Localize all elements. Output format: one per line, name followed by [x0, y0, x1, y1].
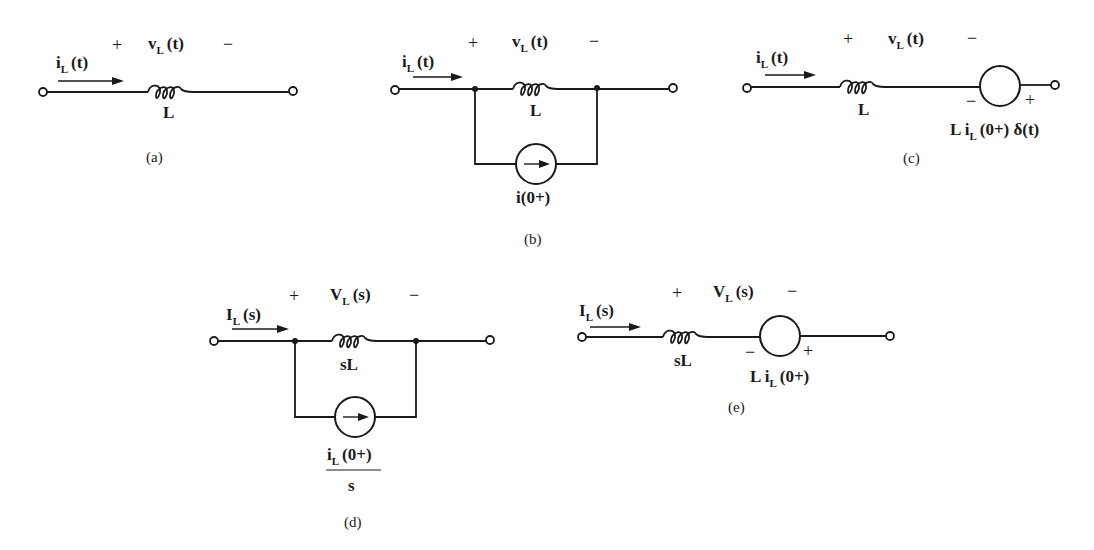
- current-label: IL(s): [226, 305, 261, 327]
- inductor-label: L: [530, 101, 541, 120]
- circuit-e: IL(s) + VL(s) − sL − + L iL(0+) (e): [578, 281, 894, 416]
- source-plus-sign: +: [803, 341, 813, 361]
- plus-sign: +: [843, 29, 853, 49]
- minus-sign: −: [223, 34, 233, 54]
- minus-sign: −: [787, 281, 797, 301]
- minus-sign: −: [967, 28, 977, 48]
- voltage-label: vL(t): [148, 34, 184, 56]
- caption-e: (e): [728, 399, 745, 416]
- current-label: iL(t): [56, 53, 88, 75]
- source-label: L iL(0+) δ(t): [950, 120, 1039, 142]
- current-arrow-icon: [590, 323, 641, 331]
- inductor-label: L: [163, 103, 174, 122]
- source-label-fraction: iL(0+) s: [326, 445, 381, 495]
- current-arrow-icon: [413, 73, 463, 81]
- source-denominator: s: [348, 476, 355, 495]
- terminal-right: [289, 87, 297, 95]
- plus-sign: +: [672, 283, 682, 303]
- current-arrow-icon: [765, 71, 816, 79]
- terminal-left: [391, 86, 399, 94]
- parallel-branch-left: [295, 341, 335, 417]
- circuit-a: iL(t) + vL(t) − L (a): [39, 34, 297, 166]
- minus-sign: −: [409, 285, 419, 305]
- terminal-right: [669, 84, 677, 92]
- inductor-label: sL: [674, 351, 692, 370]
- inductor-icon: [513, 83, 558, 96]
- current-arrow-icon: [232, 325, 289, 333]
- terminal-right: [1051, 81, 1059, 89]
- caption-b: (b): [524, 231, 542, 248]
- inductor-label: sL: [340, 355, 358, 374]
- voltage-label: VL(s): [330, 285, 371, 307]
- inductor-icon: [840, 81, 885, 94]
- plus-sign: +: [112, 35, 122, 55]
- inductor-equivalent-circuits-figure: iL(t) + vL(t) − L (a) iL(t) + vL(t) − L …: [0, 0, 1094, 550]
- voltage-label: vL(t): [512, 32, 548, 54]
- terminal-right: [886, 332, 894, 340]
- voltage-source-icon: [760, 316, 800, 356]
- caption-a: (a): [146, 149, 163, 166]
- current-label: IL(s): [579, 301, 614, 323]
- terminal-left: [39, 88, 47, 96]
- circuit-b: iL(t) + vL(t) − L i(0+) (b): [391, 31, 677, 248]
- plus-sign: +: [468, 33, 478, 53]
- source-plus-sign: +: [1025, 90, 1035, 110]
- terminal-left: [578, 333, 586, 341]
- inductor-icon: [332, 335, 377, 348]
- plus-sign: +: [289, 286, 299, 306]
- parallel-branch-left: [475, 89, 516, 164]
- parallel-branch-right: [375, 341, 416, 417]
- source-minus-sign: −: [966, 91, 976, 111]
- voltage-label: vL(t): [888, 29, 924, 51]
- terminal-left: [210, 337, 218, 345]
- caption-d: (d): [344, 514, 362, 531]
- parallel-branch-right: [556, 88, 597, 164]
- source-label: i(0+): [516, 188, 550, 207]
- inductor-label: L: [858, 100, 869, 119]
- source-minus-sign: −: [745, 342, 755, 362]
- circuit-d: IL(s) + VL(s) − sL iL(0+) s (d): [210, 285, 494, 531]
- inductor-icon: [148, 86, 193, 99]
- circuit-c: iL(t) + vL(t) − L − + L iL(0+) δ(t) (c): [743, 28, 1059, 167]
- voltage-label: VL(s): [713, 282, 754, 304]
- inductor-icon: [663, 331, 708, 344]
- source-numerator: iL(0+): [327, 445, 372, 467]
- terminal-right: [486, 336, 494, 344]
- caption-c: (c): [903, 150, 920, 167]
- current-label: iL(t): [402, 52, 434, 74]
- terminal-left: [743, 84, 751, 92]
- minus-sign: −: [589, 31, 599, 51]
- source-label: L iL(0+): [750, 367, 809, 389]
- current-arrow-icon: [58, 77, 124, 85]
- voltage-source-icon: [980, 66, 1020, 106]
- current-label: iL(t): [756, 48, 788, 70]
